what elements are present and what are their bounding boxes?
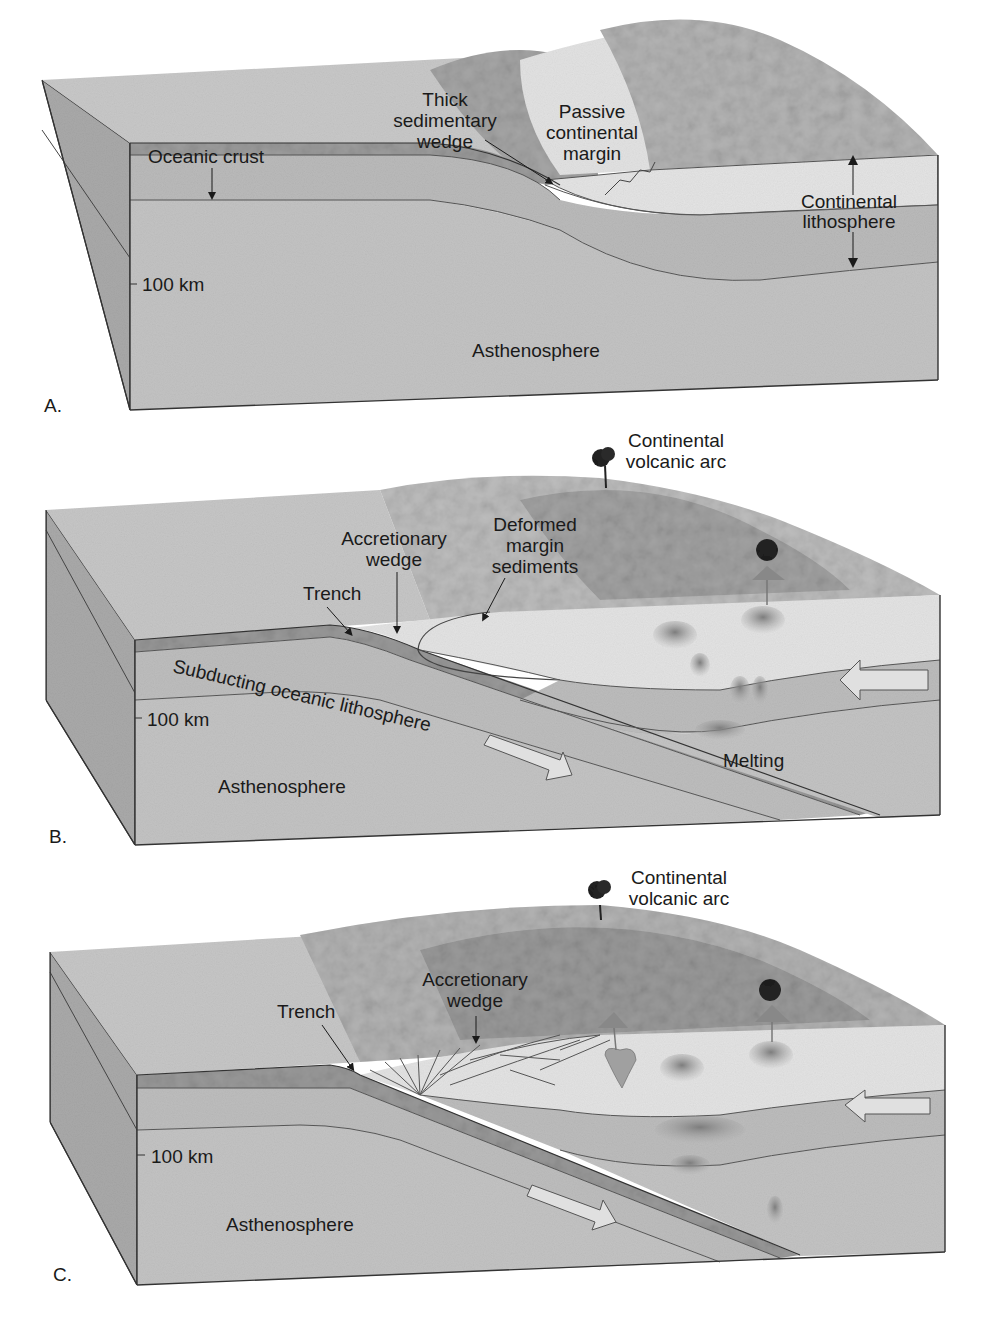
- label-cont-litho-1: Continental: [801, 191, 897, 212]
- label-deformed-3: sediments: [492, 556, 579, 577]
- label-accretionary-1: Accretionary: [341, 528, 447, 549]
- panel-a: Oceanic crust Thick sedimentary wedge Pa…: [42, 20, 938, 416]
- label-accretionary-2: wedge: [365, 549, 422, 570]
- label-deformed-2: margin: [506, 535, 564, 556]
- label-depth-100km: 100 km: [147, 709, 209, 730]
- label-passive-2: continental: [546, 122, 638, 143]
- continent-surface: [600, 20, 938, 170]
- label-oceanic-crust: Oceanic crust: [148, 146, 265, 167]
- panel-letter-c: C.: [53, 1264, 72, 1285]
- label-trench: Trench: [277, 1001, 335, 1022]
- label-depth-100km: 100 km: [151, 1146, 213, 1167]
- label-depth-100km: 100 km: [142, 274, 204, 295]
- label-passive-3: margin: [563, 143, 621, 164]
- panel-c: Continental volcanic arc Accretionary we…: [50, 867, 945, 1285]
- label-arc-1: Continental: [628, 430, 724, 451]
- label-arc-2: volcanic arc: [626, 451, 726, 472]
- panel-b: Continental volcanic arc Accretionary we…: [46, 430, 940, 847]
- tectonic-diagram: Oceanic crust Thick sedimentary wedge Pa…: [0, 0, 997, 1319]
- label-trench: Trench: [303, 583, 361, 604]
- label-arc-1: Continental: [631, 867, 727, 888]
- label-arc-2: volcanic arc: [629, 888, 729, 909]
- label-asthenosphere: Asthenosphere: [218, 776, 346, 797]
- label-cont-litho-2: lithosphere: [803, 211, 896, 232]
- label-passive-1: Passive: [559, 101, 626, 122]
- label-asthenosphere: Asthenosphere: [226, 1214, 354, 1235]
- panel-letter-a: A.: [44, 395, 62, 416]
- label-sed-wedge-2: sedimentary: [393, 110, 497, 131]
- label-accretionary-1: Accretionary: [422, 969, 528, 990]
- label-melting: Melting: [723, 750, 784, 771]
- label-accretionary-2: wedge: [446, 990, 503, 1011]
- label-sed-wedge-1: Thick: [422, 89, 468, 110]
- panel-letter-b: B.: [49, 826, 67, 847]
- label-asthenosphere: Asthenosphere: [472, 340, 600, 361]
- label-sed-wedge-3: wedge: [416, 131, 473, 152]
- label-deformed-1: Deformed: [493, 514, 576, 535]
